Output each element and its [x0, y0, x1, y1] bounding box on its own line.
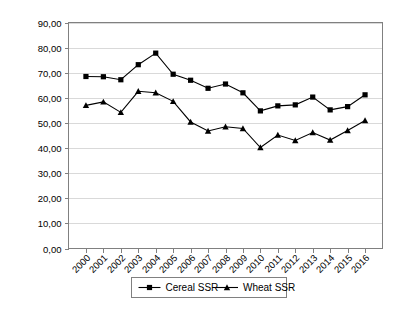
data-point-cereal-ssr-2016 [362, 92, 367, 97]
y-tick-label: 0,00 [43, 244, 62, 255]
x-axis: 2000200120022003200420052006200720082009… [70, 249, 372, 275]
data-point-cereal-ssr-2008 [223, 81, 228, 86]
data-point-wheat-ssr-2014 [327, 137, 333, 143]
chart-container: 0,0010,0020,0030,0040,0050,0060,0070,008… [0, 0, 407, 319]
y-tick-label: 90,00 [38, 18, 62, 29]
plot-frame [69, 23, 383, 249]
data-point-wheat-ssr-2001 [100, 99, 106, 105]
x-tick-label: 2003 [122, 252, 145, 275]
y-tick-label: 10,00 [38, 218, 62, 229]
x-tick-label: 2001 [87, 252, 110, 275]
y-tick-label: 60,00 [38, 93, 62, 104]
data-point-wheat-ssr-2005 [170, 98, 176, 104]
data-point-cereal-ssr-2014 [328, 107, 333, 112]
x-tick-label: 2012 [279, 252, 302, 275]
data-point-cereal-ssr-2005 [171, 72, 176, 77]
y-tick-label: 50,00 [38, 118, 62, 129]
data-point-cereal-ssr-2000 [83, 74, 88, 79]
y-tick-label: 30,00 [38, 168, 62, 179]
data-point-cereal-ssr-2007 [205, 86, 210, 91]
series-line-wheat-ssr [86, 91, 365, 147]
data-point-wheat-ssr-2015 [344, 127, 350, 133]
legend-label: Wheat SSR [243, 282, 295, 293]
data-point-cereal-ssr-2013 [310, 94, 315, 99]
series-group [83, 51, 369, 151]
x-tick-label: 2005 [157, 252, 180, 275]
x-tick-label: 2016 [349, 252, 372, 275]
data-point-cereal-ssr-2010 [258, 108, 263, 113]
y-tick-label: 70,00 [38, 68, 62, 79]
y-tick-label: 80,00 [38, 43, 62, 54]
line-chart: 0,0010,0020,0030,0040,0050,0060,0070,008… [0, 0, 407, 319]
data-point-cereal-ssr-2012 [293, 102, 298, 107]
legend-label: Cereal SSR [166, 282, 219, 293]
x-tick-label: 2007 [192, 252, 215, 275]
data-point-cereal-ssr-2011 [275, 103, 280, 108]
data-point-cereal-ssr-2004 [153, 51, 158, 56]
data-point-wheat-ssr-2016 [362, 117, 368, 123]
data-point-cereal-ssr-2003 [136, 62, 141, 67]
data-point-cereal-ssr-2006 [188, 78, 193, 83]
x-tick-label: 2014 [314, 252, 337, 275]
legend-marker-square [147, 285, 152, 290]
chart-legend: Cereal SSRWheat SSR [132, 278, 296, 298]
data-point-cereal-ssr-2001 [101, 74, 106, 79]
data-point-cereal-ssr-2002 [118, 77, 123, 82]
y-tick-label: 20,00 [38, 193, 62, 204]
data-point-cereal-ssr-2015 [345, 104, 350, 109]
x-tick-label: 2011 [262, 252, 284, 274]
y-tick-label: 40,00 [38, 143, 62, 154]
data-point-wheat-ssr-2011 [275, 132, 281, 138]
y-axis: 0,0010,0020,0030,0040,0050,0060,0070,008… [38, 18, 69, 255]
x-tick-label: 2010 [244, 252, 267, 275]
data-point-cereal-ssr-2009 [240, 90, 245, 95]
gridline-group [69, 24, 383, 224]
data-point-wheat-ssr-2013 [310, 129, 316, 135]
